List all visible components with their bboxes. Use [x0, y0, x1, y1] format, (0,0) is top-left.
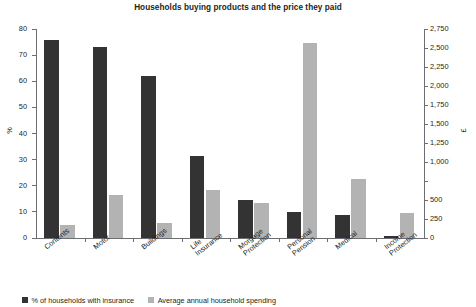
- bar-spending: [109, 195, 124, 238]
- x-axis-separator: [376, 238, 377, 242]
- y-axis-left-tick: [32, 159, 36, 160]
- y-axis-left-tick-label: 70: [19, 51, 27, 59]
- y-axis-right-tick: [425, 181, 429, 182]
- bar-households: [141, 76, 156, 238]
- y-axis-right-tick-label: 0: [430, 234, 434, 242]
- legend-label-households: % of households with insurance: [32, 296, 135, 305]
- y-axis-left-tick: [32, 29, 36, 30]
- y-axis-right-tick: [425, 29, 429, 30]
- chart-container: Households buying products and the price…: [0, 0, 476, 307]
- y-axis-right-tick-label: 500: [430, 196, 442, 204]
- chart-legend: % of households with insurance Average a…: [22, 296, 276, 305]
- y-axis-left-tick-label: 10: [19, 208, 27, 216]
- y-axis-left-tick-label: 0: [23, 234, 27, 242]
- y-axis-right-tick: [425, 105, 429, 106]
- y-axis-right-tick-label: 1,000: [430, 158, 449, 166]
- y-axis-right-tick: [425, 143, 429, 144]
- legend-item-households: % of households with insurance: [22, 296, 134, 305]
- y-axis-left-tick: [32, 107, 36, 108]
- x-axis-separator: [230, 238, 231, 242]
- y-axis-left-tick: [32, 238, 36, 239]
- y-axis-right-tick: [425, 86, 429, 87]
- y-axis-right-tick: [425, 200, 429, 201]
- chart-title: Households buying products and the price…: [0, 3, 476, 12]
- y-axis-right-tick-label: 2,750: [430, 25, 449, 33]
- y-axis-right-tick: [425, 124, 429, 125]
- y-axis-left-tick: [32, 185, 36, 186]
- y-axis-right-tick-label: 1,250: [430, 139, 449, 147]
- bar-spending: [303, 43, 318, 238]
- x-axis-separator: [279, 238, 280, 242]
- y-axis-right-line: [424, 29, 425, 239]
- bar-households: [93, 47, 108, 238]
- y-axis-left-tick-label: 60: [19, 77, 27, 85]
- y-axis-right-tick: [425, 162, 429, 163]
- y-axis-right-tick-label: 2,500: [430, 44, 449, 52]
- y-axis-right-tick: [425, 67, 429, 68]
- legend-item-spending: Average annual household spending: [148, 296, 276, 305]
- y-axis-left-tick-label: 80: [19, 25, 27, 33]
- y-axis-left-tick: [32, 133, 36, 134]
- y-axis-right-tick-label: 1,750: [430, 101, 449, 109]
- x-axis-separator: [85, 238, 86, 242]
- y-axis-right-tick-label: 1,500: [430, 120, 449, 128]
- x-axis-separator: [182, 238, 183, 242]
- bar-households: [190, 156, 205, 238]
- plot-area: [36, 29, 424, 238]
- y-axis-right-tick: [425, 238, 429, 239]
- y-axis-left-tick-label: 50: [19, 103, 27, 111]
- bar-households: [44, 40, 59, 238]
- x-axis-separator: [327, 238, 328, 242]
- y-axis-right-tick: [425, 48, 429, 49]
- y-axis-right-tick-label: 2,000: [430, 82, 449, 90]
- y-axis-right-tick: [425, 219, 429, 220]
- y-axis-right-tick-label: 250: [430, 215, 442, 223]
- y-axis-right-tick-label: 2,250: [430, 63, 449, 71]
- legend-swatch-icon-households: [22, 297, 28, 303]
- y-axis-right-title: £: [459, 120, 468, 142]
- y-axis-left-tick: [32, 55, 36, 56]
- x-axis-separator: [133, 238, 134, 242]
- legend-swatch-icon-spending: [148, 297, 154, 303]
- y-axis-left-tick-label: 40: [19, 130, 27, 138]
- y-axis-left-tick: [32, 81, 36, 82]
- y-axis-left-title: %: [5, 120, 14, 142]
- y-axis-left-tick-label: 20: [19, 182, 27, 190]
- y-axis-left-tick-label: 30: [19, 156, 27, 164]
- y-axis-left-tick: [32, 211, 36, 212]
- legend-label-spending: Average annual household spending: [158, 296, 276, 305]
